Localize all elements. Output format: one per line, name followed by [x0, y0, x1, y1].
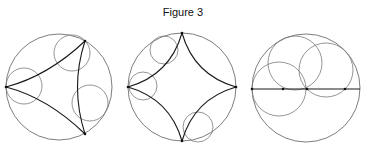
ideal-point: [251, 88, 254, 91]
panel-horocycles-on-diameter: [251, 34, 360, 142]
geodesic-arc: [6, 87, 85, 134]
geodesic-arc: [6, 41, 85, 87]
horocycle: [268, 36, 322, 90]
ideal-point: [84, 133, 87, 136]
ideal-point: [181, 140, 184, 143]
ideal-point: [282, 88, 285, 91]
ideal-point: [235, 86, 238, 89]
boundary-circle: [6, 34, 112, 140]
figure-canvas: [0, 0, 366, 156]
boundary-circle: [128, 33, 236, 141]
ideal-point: [181, 32, 184, 35]
geodesic-arc: [128, 87, 182, 141]
ideal-point: [127, 86, 130, 89]
ideal-point: [5, 86, 8, 89]
panel-ideal-triangle: [5, 34, 112, 140]
ideal-point: [84, 40, 87, 43]
panel-ideal-quadrilateral: [127, 32, 238, 143]
ideal-point: [306, 88, 309, 91]
ideal-point: [344, 88, 347, 91]
geodesic-arc: [182, 33, 236, 87]
horocycle: [150, 36, 178, 64]
